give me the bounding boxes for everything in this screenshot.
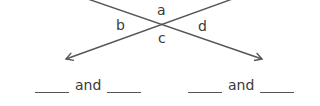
angle-label-a: a: [157, 3, 166, 17]
angle-label-c: c: [158, 31, 166, 45]
angle-label-b: b: [116, 18, 125, 32]
and-label: and: [228, 77, 254, 93]
answer-pair-2: and: [188, 76, 294, 93]
answer-blank-4[interactable]: [260, 76, 294, 93]
and-label: and: [75, 77, 101, 93]
line-1: [82, 0, 262, 59]
line-2: [66, 0, 238, 59]
answer-blank-1[interactable]: [35, 76, 69, 93]
answer-pair-1: and: [35, 76, 141, 93]
angle-label-d: d: [198, 19, 207, 33]
answer-blank-3[interactable]: [188, 76, 222, 93]
answer-blank-2[interactable]: [107, 76, 141, 93]
